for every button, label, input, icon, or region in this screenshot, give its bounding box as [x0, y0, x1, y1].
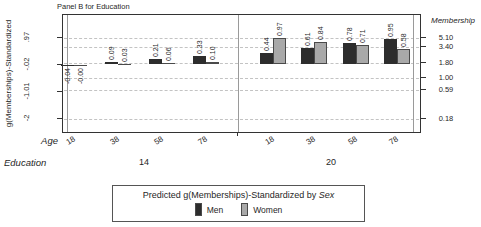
- bar-men: [105, 62, 118, 64]
- right-tick-mark: [420, 77, 426, 78]
- value-label: 0.58: [399, 17, 409, 47]
- education-axis-word: Education: [4, 157, 46, 168]
- legend-box: Predicted g(Memberships)-Standardized by…: [112, 185, 365, 222]
- legend-entry-label: Men: [207, 205, 224, 215]
- value-label: 0.09: [107, 30, 117, 60]
- men-swatch: [195, 203, 202, 216]
- age-axis-word: Age: [30, 135, 58, 146]
- right-tick-label: 3.40: [429, 42, 463, 51]
- bar-women: [314, 42, 327, 65]
- value-label: 0.95: [386, 7, 396, 37]
- right-tick-mark: [420, 118, 426, 119]
- education-group-label: 14: [132, 157, 156, 167]
- left-tick-mark: [57, 91, 63, 92]
- gridline: [64, 119, 419, 120]
- bar-women: [162, 63, 175, 65]
- right-tick-label: 0.18: [429, 114, 463, 123]
- value-label: 0.10: [208, 30, 218, 60]
- right-tick-mark: [420, 89, 426, 90]
- right-tick-mark: [420, 46, 426, 47]
- left-tick-mark: [57, 64, 63, 65]
- inner-axis-line-right: [413, 15, 414, 132]
- bar-women: [397, 49, 410, 65]
- gridline: [64, 90, 419, 91]
- value-label: 0.21: [151, 27, 161, 57]
- bar-men: [193, 56, 206, 65]
- left-tick-label: -2: [22, 98, 32, 138]
- right-tick-label: 0.59: [429, 85, 463, 94]
- legend-title-text: Predicted g(Memberships)-Standardized by: [143, 190, 319, 200]
- legend-title: Predicted g(Memberships)-Standardized by…: [113, 190, 364, 200]
- chart-stage: Panel B for Education g(Memberships)-Sta…: [0, 0, 481, 227]
- age-tick-label: 58: [148, 131, 170, 150]
- gridline: [64, 78, 419, 79]
- group-separator-line: [238, 15, 239, 132]
- separator-tick-mark: [237, 132, 238, 136]
- value-label: 0.78: [345, 11, 355, 41]
- value-label: -0.04: [63, 68, 73, 98]
- value-label: 0.33: [195, 24, 205, 54]
- right-axis-title: Membership: [424, 16, 481, 25]
- value-label: 0.71: [358, 13, 368, 43]
- plot-frame: -0.04-0.000.090.030.210.060.330.100.440.…: [62, 14, 421, 133]
- right-tick-mark: [420, 62, 426, 63]
- age-tick-label: 78: [192, 131, 214, 150]
- bar-women: [273, 38, 286, 64]
- age-tick-label: 18: [60, 131, 82, 150]
- value-label: 0.44: [262, 21, 272, 51]
- legend-title-sex: Sex: [319, 190, 335, 200]
- y-axis-title: g(Memberships)-Standardized: [4, 14, 13, 134]
- right-tick-label: 5.10: [429, 33, 463, 42]
- right-tick-label: 1.80: [429, 58, 463, 67]
- value-label: -0.00: [76, 68, 86, 98]
- bar-women: [356, 45, 369, 64]
- age-tick-label: 58: [342, 131, 364, 150]
- legend-entry-men: Men: [195, 203, 224, 216]
- left-tick-mark: [57, 118, 63, 119]
- education-group-label: 20: [319, 157, 343, 167]
- right-tick-mark: [420, 37, 426, 38]
- bar-women: [118, 64, 131, 65]
- value-label: 0.97: [275, 6, 285, 36]
- value-label: 0.61: [303, 16, 313, 46]
- left-tick-mark: [57, 37, 63, 38]
- bar-women: [206, 62, 219, 65]
- bar-men: [384, 39, 397, 65]
- legend-entry-label: Women: [253, 205, 282, 215]
- age-tick-label: 78: [383, 131, 405, 150]
- bar-men: [260, 53, 273, 65]
- legend-entries: MenWomen: [113, 203, 364, 216]
- age-tick-label: 18: [259, 131, 281, 150]
- age-tick-label: 38: [104, 131, 126, 150]
- bar-men: [301, 48, 314, 65]
- value-label: 0.03: [120, 32, 130, 62]
- age-tick-label: 38: [300, 131, 322, 150]
- women-swatch: [241, 203, 248, 216]
- value-label: 0.84: [316, 10, 326, 40]
- panel-title: Panel B for Education: [57, 2, 130, 11]
- value-label: 0.06: [164, 31, 174, 61]
- bar-men: [149, 59, 162, 65]
- right-tick-label: 1.00: [429, 73, 463, 82]
- legend-entry-women: Women: [241, 203, 282, 216]
- bar-women: [74, 65, 87, 66]
- bar-men: [343, 43, 356, 64]
